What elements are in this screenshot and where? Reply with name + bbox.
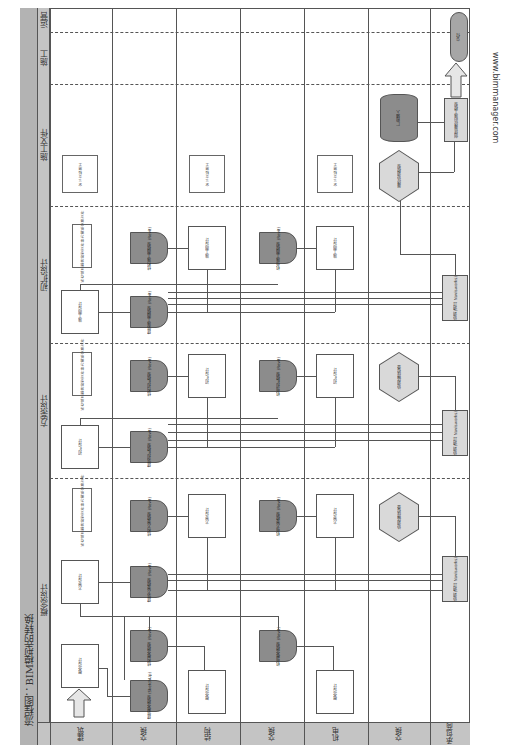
connector xyxy=(99,312,130,313)
connector xyxy=(168,312,335,313)
connector xyxy=(297,516,316,517)
cd-struct-design: 施工图设计 xyxy=(188,226,226,270)
connector xyxy=(80,284,81,290)
connector xyxy=(80,418,81,425)
connector xyxy=(455,516,456,556)
cd-coordination: 协调 (通过 Navisworks) xyxy=(442,275,468,321)
connector xyxy=(297,248,316,249)
dd-note: 所有成员都将模型文件转为图纸交换文件 xyxy=(72,352,92,396)
connector xyxy=(168,574,442,575)
schematic-struct-design: 方案设计 xyxy=(188,494,226,538)
lane-label-arch: 建筑 xyxy=(50,722,112,745)
dd-mep-model: 机电初扩模型 (Revit) xyxy=(259,360,297,392)
schematic-arch-design: 方案设计 xyxy=(61,560,99,604)
connector xyxy=(400,254,455,255)
connector xyxy=(168,646,204,647)
connector xyxy=(454,142,455,172)
connector xyxy=(107,696,130,697)
connector xyxy=(168,447,335,448)
dd-struct-model: 结构初扩模型 (Revit) xyxy=(130,360,168,392)
connector xyxy=(418,122,444,123)
connector xyxy=(168,298,442,299)
dd-struct-design: 初扩设计 xyxy=(188,354,226,398)
watermark-container: www.bimmanager.com xyxy=(487,8,503,188)
connector xyxy=(99,668,107,669)
phase-divider xyxy=(50,84,470,85)
connector xyxy=(168,516,188,517)
dd-mep-design: 初扩设计 xyxy=(316,354,354,398)
schematic-mep-design: 方案设计 xyxy=(316,494,354,538)
connector xyxy=(207,270,208,312)
connector xyxy=(297,376,316,377)
lane-divider xyxy=(240,8,241,745)
concept-mep-design: 概念设计 xyxy=(316,670,354,714)
diagram-title: 流程图：BIM模型的转换 xyxy=(22,614,37,726)
connector xyxy=(335,270,336,312)
connector xyxy=(168,432,442,433)
lane-divider xyxy=(368,8,369,745)
dd-arch-design: 初扩设计 xyxy=(61,425,99,469)
lane-divider xyxy=(112,8,113,745)
concept-struct-design: 概念设计 xyxy=(188,670,226,714)
construction-create-final: 创建最终的施工模型 xyxy=(444,98,468,142)
connector xyxy=(297,646,333,647)
connector xyxy=(80,604,81,616)
connector xyxy=(168,376,188,377)
cd-arch-design: 施工图设计 xyxy=(61,290,99,334)
phase-label-schematic: 方案设计 xyxy=(38,343,50,478)
connector xyxy=(335,538,336,590)
dd-coordination: 协调 (通过 Navisworks) xyxy=(442,410,468,456)
connector xyxy=(168,580,442,581)
connector xyxy=(99,582,130,583)
start-arrow-icon xyxy=(66,688,92,718)
lane-label-exchange-2: 交换 xyxy=(240,722,304,745)
watermark-text: www.bimmanager.com xyxy=(491,52,500,143)
concept-arch-design: 概念设计 xyxy=(61,644,99,688)
schematic-struct-model: 结构方案模型 (Revit) xyxy=(130,500,168,532)
schematic-note: 所有成员都将模型文件转为图纸交换文件 xyxy=(72,488,92,532)
lane-divider xyxy=(50,8,51,745)
cd-mep-design: 施工图设计 xyxy=(316,226,354,270)
connector xyxy=(168,248,188,249)
connector xyxy=(99,447,130,448)
construction-vendor-input: 厂商输入 xyxy=(380,94,418,142)
connector xyxy=(333,646,334,670)
lane-label-mep: 机电 xyxy=(304,722,368,745)
connector xyxy=(124,616,125,680)
schematic-mep-model: 机电方案模型 (Revit) xyxy=(259,500,297,532)
connector xyxy=(149,616,150,630)
connector xyxy=(418,172,454,173)
connector xyxy=(207,538,208,590)
phase-label-concept: 概念设计 xyxy=(38,478,50,722)
phase-divider xyxy=(50,478,470,479)
phase-divider xyxy=(50,343,470,344)
phase-label-construction: 施工 xyxy=(38,32,50,84)
lane-label-contractor: 承包商 xyxy=(430,722,470,745)
cd-mep-model: 机电施工图模型 (Revit) xyxy=(259,232,297,264)
concept-struct-model: 结构概念模型 (Revit) xyxy=(130,630,168,662)
title-container: 流程图：BIM模型的转换 xyxy=(20,600,38,740)
connector xyxy=(204,646,205,670)
handoff-arrow-icon xyxy=(444,62,468,98)
phase-label-operation: 运营 xyxy=(38,8,50,32)
concept-arch-model: 建筑概念模型 (SketchUp) xyxy=(130,680,168,712)
connector xyxy=(335,398,336,447)
connector xyxy=(419,376,455,377)
connector xyxy=(80,616,278,617)
connector xyxy=(278,616,279,630)
connector xyxy=(168,424,442,425)
construction-arch-note: 定义文档施工 xyxy=(62,155,98,193)
dd-arch-model: 建筑初扩模型 (Revit) xyxy=(130,431,168,463)
lane-label-exchange-1: 交换 xyxy=(112,722,176,745)
phase-divider xyxy=(50,206,470,207)
connector xyxy=(107,668,108,696)
cd-arch-model: 建筑施工图模型 (Revit) xyxy=(130,296,168,328)
connector xyxy=(455,254,456,275)
connector xyxy=(207,398,208,447)
phase-label-design-dev: 初扩设计 xyxy=(38,206,50,343)
phase-label-construction-docs: 施工文件 xyxy=(38,84,50,206)
construction-struct-note: 定义文档施工 xyxy=(189,155,225,193)
phase-divider xyxy=(50,32,470,33)
connector xyxy=(168,304,442,305)
connector xyxy=(80,284,278,285)
